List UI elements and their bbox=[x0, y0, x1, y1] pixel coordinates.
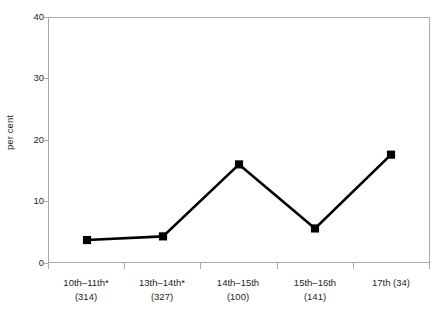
data-point-marker bbox=[387, 151, 395, 159]
data-point-marker bbox=[235, 160, 243, 168]
y-axis-title-text: per cent bbox=[5, 115, 16, 150]
data-point-marker bbox=[83, 236, 91, 244]
data-point-marker bbox=[159, 232, 167, 240]
x-category-label-4: 17th (34) bbox=[336, 276, 439, 290]
x-tick-mark-2 bbox=[200, 263, 201, 269]
plot-area bbox=[48, 17, 430, 263]
y-tick-label-0: 0 bbox=[16, 258, 44, 268]
x-category-label-0-line1: 10th–11th* bbox=[63, 277, 108, 288]
x-category-label-1-line1: 13th–14th* bbox=[139, 277, 185, 288]
data-point-marker bbox=[311, 224, 319, 232]
y-tick-label-10: 10 bbox=[16, 196, 44, 206]
line-chart: per cent 40 30 20 10 0 10th–11th* (314) … bbox=[0, 0, 439, 321]
x-category-label-3-line2: (141) bbox=[260, 290, 370, 304]
y-tick-label-40: 40 bbox=[16, 12, 44, 22]
x-tick-mark-3 bbox=[277, 263, 278, 269]
x-tick-mark-5 bbox=[429, 263, 430, 269]
y-tick-label-20: 20 bbox=[16, 135, 44, 145]
x-tick-mark-0 bbox=[48, 263, 49, 269]
y-axis-title: per cent bbox=[0, 0, 20, 265]
x-category-label-4-line1: 17th (34) bbox=[372, 277, 410, 288]
x-category-label-2-line1: 14th–15th bbox=[217, 277, 259, 288]
x-tick-mark-1 bbox=[124, 263, 125, 269]
y-tick-label-30: 30 bbox=[16, 73, 44, 83]
x-category-label-3-line1: 15th–16th bbox=[294, 277, 336, 288]
x-tick-mark-4 bbox=[353, 263, 354, 269]
data-series-svg bbox=[49, 18, 429, 262]
